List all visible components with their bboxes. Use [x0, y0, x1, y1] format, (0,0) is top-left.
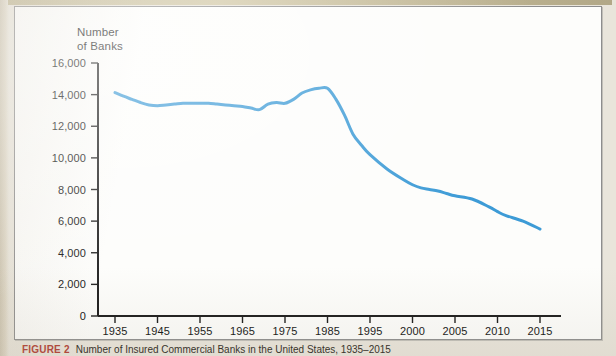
x-axis-tick-label: 1935 — [103, 325, 128, 337]
x-axis-tick-label: 1995 — [358, 325, 383, 337]
y-axis-tick-label: 6,000 — [15, 215, 86, 227]
series-line-number-of-banks — [115, 87, 540, 229]
y-axis-ticks — [91, 63, 98, 316]
x-axis-tick-label: 2015 — [528, 325, 553, 337]
x-axis-tick-label: 1985 — [315, 325, 340, 337]
x-axis-tick-label: 2000 — [400, 325, 425, 337]
y-axis-tick-label: 16,000 — [15, 57, 86, 69]
y-axis-tick-label: 2,000 — [15, 278, 86, 290]
page-left-edge-strip — [0, 0, 9, 356]
x-axis-tick-label: 1955 — [188, 325, 213, 337]
figure-panel: Number of Banks 02,0004,0006,0008,00010,… — [14, 6, 602, 340]
page-top-edge-strip — [8, 0, 612, 5]
line-chart-svg — [15, 7, 601, 339]
x-axis-tick-label: 2010 — [485, 325, 510, 337]
figure-caption-label: FIGURE 2 — [22, 344, 70, 355]
figure-caption-text: Number of Insured Commercial Banks in th… — [76, 344, 391, 355]
x-axis-ticks — [115, 316, 540, 323]
y-axis-tick-label: 12,000 — [15, 120, 86, 132]
y-axis-tick-label: 4,000 — [15, 247, 86, 259]
x-axis-tick-label: 1975 — [273, 325, 298, 337]
y-axis-tick-label: 8,000 — [15, 184, 86, 196]
x-axis-tick-label: 1945 — [145, 325, 170, 337]
y-axis-tick-label: 14,000 — [15, 89, 86, 101]
y-axis-tick-label: 10,000 — [15, 152, 86, 164]
y-axis-tick-label: 0 — [15, 310, 86, 322]
figure-caption: FIGURE 2Number of Insured Commercial Ban… — [22, 344, 602, 356]
x-axis-tick-label: 1965 — [230, 325, 255, 337]
plot-area: Number of Banks 02,0004,0006,0008,00010,… — [15, 7, 601, 339]
x-axis-tick-label: 2005 — [443, 325, 468, 337]
